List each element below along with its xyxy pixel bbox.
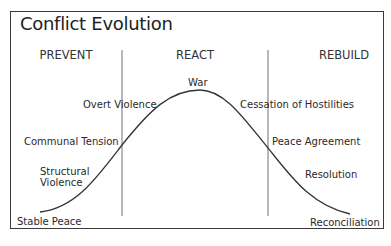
stage-resolution: Resolution: [305, 169, 357, 180]
stage-communal-tension: Communal Tension: [24, 136, 119, 147]
stage-structural-violence: Structural Violence: [40, 166, 100, 188]
stage-reconciliation: Reconciliation: [310, 217, 380, 228]
stage-overt-violence: Overt Violence: [83, 99, 157, 110]
stage-cessation-of-hostilities: Cessation of Hostilities: [240, 99, 354, 110]
conflict-curve: [0, 0, 391, 246]
stage-stable-peace: Stable Peace: [17, 216, 81, 227]
stage-peace-agreement: Peace Agreement: [272, 136, 360, 147]
stage-war: War: [188, 77, 208, 88]
